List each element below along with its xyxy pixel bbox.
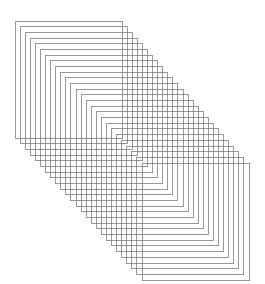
figure-canvas: [0, 0, 265, 284]
stacked-rectangles-svg: [0, 0, 265, 284]
